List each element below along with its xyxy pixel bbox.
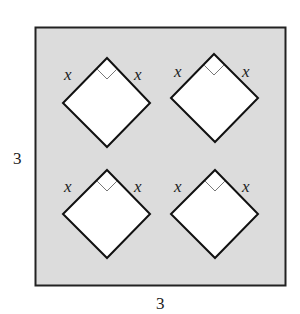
side-label-left: x bbox=[63, 65, 72, 84]
side-label-left: x bbox=[63, 177, 72, 196]
side-label-right: x bbox=[133, 65, 142, 84]
side-label-right: x bbox=[241, 62, 250, 81]
side-label-left: x bbox=[173, 177, 182, 196]
side-label-right: x bbox=[133, 177, 142, 196]
figure-canvas: x x x x x x x x 3 3 bbox=[0, 0, 300, 314]
dimension-label-left: 3 bbox=[13, 149, 22, 168]
dimension-label-bottom: 3 bbox=[156, 294, 165, 313]
side-label-left: x bbox=[173, 62, 182, 81]
side-label-right: x bbox=[241, 177, 250, 196]
